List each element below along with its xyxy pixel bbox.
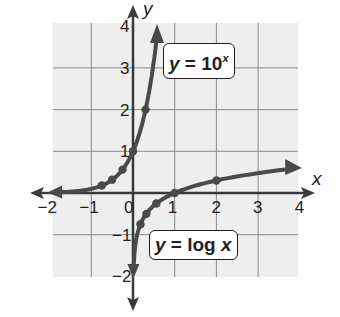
log-data-point: [171, 189, 179, 197]
x-axis-label: x: [311, 168, 323, 189]
exp-data-point: [108, 175, 116, 183]
x-tick-label: 1: [168, 198, 177, 217]
log-label-x: x: [221, 234, 232, 255]
log-function-label: y = log x: [149, 230, 238, 260]
log-label-y: y: [155, 234, 166, 255]
y-tick-label: 2: [120, 101, 129, 120]
log-data-point: [212, 176, 220, 184]
exp-data-point: [98, 181, 106, 189]
x-tick-label: 2: [211, 198, 220, 217]
log-data-point: [142, 210, 150, 218]
y-tick-label: 3: [120, 59, 129, 78]
x-tick-label: −1: [79, 198, 98, 217]
y-tick-label: 1: [120, 142, 129, 161]
y-tick-label: −2: [112, 267, 131, 286]
x-tick-label: 4: [295, 198, 304, 217]
y-axis-label: y: [141, 0, 154, 19]
exp-data-point: [141, 105, 149, 113]
exp-label-y: y: [169, 53, 180, 74]
y-tick-label: −1: [112, 226, 131, 245]
exp-label-eq: = 10: [180, 53, 223, 74]
log-data-point: [152, 199, 160, 207]
exp-function-label: y = 10x: [163, 43, 235, 79]
log-data-point: [136, 220, 144, 228]
exp-label-sup: x: [222, 52, 228, 64]
x-tick-label: 0: [124, 198, 133, 217]
exp-data-point: [118, 165, 126, 173]
log-label-eq: = log: [166, 234, 221, 255]
exp-data-point: [129, 147, 137, 155]
y-tick-label: 4: [120, 17, 129, 36]
x-tick-label: 3: [253, 198, 262, 217]
x-tick-label: −2: [38, 198, 57, 217]
